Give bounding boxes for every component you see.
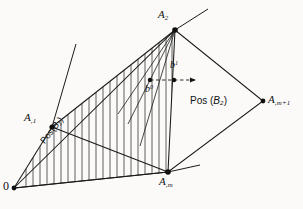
segment-a2-am (168, 30, 175, 172)
label-a2-base: A (158, 8, 165, 20)
point-dot-b0 (148, 78, 152, 82)
vertex-dot-am (165, 169, 171, 175)
label-pos-b2-var: B (213, 95, 220, 106)
label-a1-sub: ,1 (31, 117, 37, 124)
label-pos-b2: Pos (B2) (190, 96, 227, 107)
label-am-plus-1-base: A (268, 93, 275, 105)
vertex-dot-am-plus-1 (261, 99, 266, 104)
label-b1: b1 (170, 60, 178, 70)
ray-beyond-a2 (175, 9, 208, 30)
label-am-base: A (159, 175, 166, 187)
label-pos-b2-text: Pos ( (190, 95, 213, 106)
label-origin: 0 (3, 180, 9, 192)
geometric-figure: 0 A2 A,1 A,m A,m+1 b0 b1 Pos(B1) Pos (B2… (0, 0, 303, 209)
label-a1: A,1 (24, 112, 36, 124)
outer-quadrilateral (14, 30, 263, 188)
ray-through-a1 (52, 44, 76, 127)
segment-a1-a2 (52, 30, 175, 127)
label-b0-sup: 0 (150, 83, 153, 90)
segment-origin-am (14, 172, 168, 188)
label-pos-b2-close: ) (224, 95, 227, 106)
label-a2-sub: 2 (165, 14, 169, 21)
label-b0: b0 (145, 84, 153, 94)
point-dot-b1 (172, 78, 176, 82)
vertex-dot-origin (12, 186, 17, 191)
label-a1-base: A (24, 111, 31, 123)
diagram-canvas (0, 0, 303, 209)
label-am-plus-1: A,m+1 (268, 94, 291, 106)
label-am-plus-1-sub: ,m+1 (275, 99, 291, 106)
label-am-sub: ,m (166, 181, 173, 188)
label-a2: A2 (158, 9, 168, 21)
label-b1-sup: 1 (175, 59, 178, 66)
vertex-dot-a2 (172, 27, 178, 33)
label-am: A,m (159, 176, 173, 188)
